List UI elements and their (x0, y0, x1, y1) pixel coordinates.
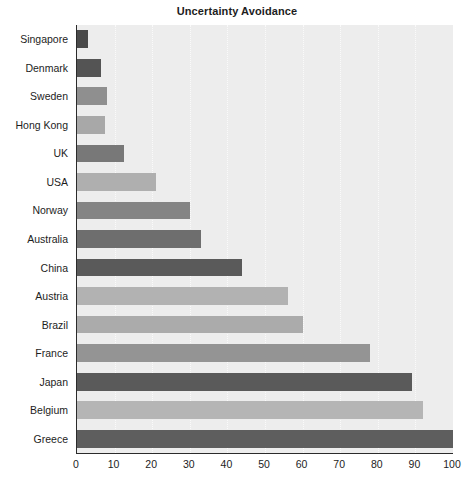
bar-series (77, 25, 453, 453)
y-label-belgium: Belgium (30, 404, 68, 416)
bar-japan (77, 373, 412, 391)
x-tick-label-0: 0 (73, 458, 79, 470)
y-label-singapore: Singapore (20, 33, 68, 45)
x-tick-label-80: 80 (371, 458, 383, 470)
y-label-sweden: Sweden (30, 90, 68, 102)
plot-area (76, 25, 453, 454)
y-label-uk: UK (53, 147, 68, 159)
bar-usa (77, 173, 156, 191)
x-tick-label-30: 30 (183, 458, 195, 470)
y-label-france: France (35, 347, 68, 359)
bar-row (77, 145, 453, 163)
x-tick-label-100: 100 (443, 458, 461, 470)
bar-row (77, 401, 453, 419)
bar-row (77, 59, 453, 77)
x-tick-label-90: 90 (409, 458, 421, 470)
chart-title: Uncertainty Avoidance (0, 5, 474, 17)
bar-row (77, 316, 453, 334)
y-label-usa: USA (46, 176, 68, 188)
y-label-greece: Greece (34, 433, 68, 445)
bar-china (77, 259, 242, 277)
bar-greece (77, 430, 453, 448)
bar-austria (77, 287, 288, 305)
bar-singapore (77, 30, 88, 48)
x-tick-label-70: 70 (333, 458, 345, 470)
bar-row (77, 430, 453, 448)
bar-france (77, 344, 370, 362)
bar-row (77, 173, 453, 191)
x-tick-label-40: 40 (221, 458, 233, 470)
bar-row (77, 230, 453, 248)
y-label-denmark: Denmark (25, 62, 68, 74)
bar-row (77, 87, 453, 105)
x-axis-tick-labels: 0102030405060708090100 (0, 458, 474, 478)
y-label-norway: Norway (32, 204, 68, 216)
y-label-brazil: Brazil (42, 319, 68, 331)
y-label-austria: Austria (35, 290, 68, 302)
x-tick-label-60: 60 (296, 458, 308, 470)
y-label-hong-kong: Hong Kong (15, 119, 68, 131)
bar-row (77, 202, 453, 220)
y-label-japan: Japan (39, 376, 68, 388)
bar-row (77, 116, 453, 134)
bar-denmark (77, 59, 101, 77)
bar-row (77, 287, 453, 305)
bar-row (77, 30, 453, 48)
bar-belgium (77, 401, 423, 419)
y-label-australia: Australia (27, 233, 68, 245)
bar-sweden (77, 87, 107, 105)
bar-uk (77, 145, 124, 163)
x-tick-label-10: 10 (108, 458, 120, 470)
bar-row (77, 344, 453, 362)
y-axis-category-labels: SingaporeDenmarkSwedenHong KongUKUSANorw… (0, 25, 72, 453)
y-label-china: China (41, 262, 68, 274)
x-tick-label-20: 20 (145, 458, 157, 470)
bar-hong-kong (77, 116, 105, 134)
uncertainty-avoidance-bar-chart: Uncertainty Avoidance SingaporeDenmarkSw… (0, 0, 474, 486)
bar-brazil (77, 316, 303, 334)
bar-norway (77, 202, 190, 220)
bar-row (77, 259, 453, 277)
bar-australia (77, 230, 201, 248)
x-tick-label-50: 50 (258, 458, 270, 470)
bar-row (77, 373, 453, 391)
